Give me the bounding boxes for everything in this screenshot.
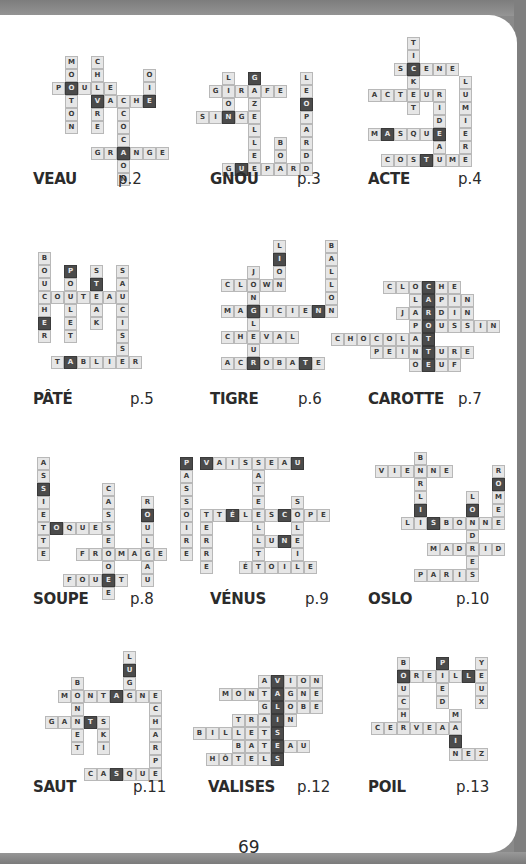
grid-cell: T [200, 509, 213, 522]
puzzle-answer: SAUT [33, 778, 76, 796]
grid-cell: U [64, 291, 77, 304]
grid-cell-highlighted: G [247, 305, 260, 318]
grid-cell: C [383, 281, 396, 294]
grid-cell: I [459, 115, 472, 128]
puzzle-page-ref: p.10 [456, 590, 489, 608]
grid-cell: R [245, 714, 258, 727]
grid-cell: I [396, 346, 409, 359]
grid-cell: P [435, 294, 448, 307]
grid-cell: A [284, 740, 297, 753]
grid-cell: O [325, 292, 338, 305]
grid-cell: N [487, 320, 500, 333]
grid-cell: Z [248, 98, 261, 111]
grid-cell: N [65, 121, 78, 134]
grid-cell: E [310, 688, 323, 701]
grid-cell: H [130, 95, 143, 108]
grid-cell-highlighted: T [90, 278, 103, 291]
grid-cell-highlighted: I [273, 253, 286, 266]
grid-cell: O [394, 154, 407, 167]
grid-cell: E [274, 85, 287, 98]
grid-cell: E [90, 291, 103, 304]
grid-cell: I [143, 82, 156, 95]
grid-cell: P [52, 82, 65, 95]
puzzle-page-ref: p.6 [298, 390, 322, 408]
grid-cell: L [222, 72, 235, 85]
grid-cell: X [475, 696, 488, 709]
puzzle-answer: PÂTÉ [33, 390, 72, 408]
grid-cell: S [116, 330, 129, 343]
grid-cell: B [397, 657, 410, 670]
grid-cell-highlighted: A [64, 356, 77, 369]
grid-cell: S [448, 320, 461, 333]
grid-cell: S [180, 483, 193, 496]
grid-cell: O [291, 509, 304, 522]
grid-cell: C [221, 279, 234, 292]
grid-cell: U [141, 574, 154, 587]
grid-cell: E [384, 722, 397, 735]
grid-cell: C [397, 696, 410, 709]
grid-cell: O [222, 98, 235, 111]
grid-cell: T [97, 690, 110, 703]
grid-cell: I [278, 561, 291, 574]
grid-cell-highlighted: E [102, 574, 115, 587]
grid-cell: L [459, 76, 472, 89]
grid-cell: U [247, 344, 260, 357]
grid-cell: U [76, 522, 89, 535]
grid-cell: A [97, 768, 110, 781]
grid-cell: C [91, 56, 104, 69]
grid-cell: G [123, 677, 136, 690]
grid-cell: F [63, 574, 76, 587]
grid-cell: N [461, 307, 474, 320]
grid-cell: S [102, 522, 115, 535]
grid-cell: B [193, 727, 206, 740]
grid-cell: J [396, 307, 409, 320]
grid-cell: B [71, 677, 84, 690]
grid-cell: S [407, 154, 420, 167]
grid-cell: E [37, 509, 50, 522]
grid-cell: E [149, 690, 162, 703]
grid-cell: I [388, 465, 401, 478]
grid-cell: R [141, 496, 154, 509]
grid-cell: T [37, 535, 50, 548]
grid-cell: A [325, 253, 338, 266]
grid-cell: E [116, 356, 129, 369]
grid-cell: O [383, 333, 396, 346]
grid-cell: C [221, 331, 234, 344]
grid-cell: A [245, 740, 258, 753]
grid-cell: A [440, 543, 453, 556]
grid-cell-highlighted: S [271, 753, 284, 766]
grid-cell-highlighted: E [422, 359, 435, 372]
grid-cell-highlighted: T [422, 346, 435, 359]
grid-cell: O [274, 150, 287, 163]
grid-cell: A [273, 331, 286, 344]
grid-cell: D [435, 307, 448, 320]
grid-cell: K [90, 317, 103, 330]
grid-cell-highlighted: S [110, 768, 123, 781]
grid-cell: A [258, 675, 271, 688]
grid-cell: E [459, 154, 472, 167]
grid-cell: L [232, 727, 245, 740]
grid-cell: E [461, 346, 474, 359]
grid-cell: U [116, 291, 129, 304]
grid-cell: C [117, 134, 130, 147]
grid-cell: O [38, 265, 51, 278]
grid-cell: N [297, 688, 310, 701]
puzzle-answer: ACTE [368, 170, 410, 188]
grid-cell: D [300, 150, 313, 163]
grid-cell: A [300, 124, 313, 137]
grid-cell: A [90, 304, 103, 317]
grid-cell-highlighted: O [65, 82, 78, 95]
grid-cell: E [492, 504, 505, 517]
grid-cell: K [97, 729, 110, 742]
grid-cell: B [325, 240, 338, 253]
grid-cell: H [344, 333, 357, 346]
grid-cell: M [427, 543, 440, 556]
grid-cell: E [102, 535, 115, 548]
grid-cell: Ô [219, 753, 232, 766]
grid-cell: M [446, 154, 459, 167]
grid-cell-highlighted: S [37, 483, 50, 496]
grid-cell: L [258, 753, 271, 766]
grid-cell: A [248, 85, 261, 98]
grid-cell: S [90, 265, 103, 278]
grid-cell: E [304, 561, 317, 574]
